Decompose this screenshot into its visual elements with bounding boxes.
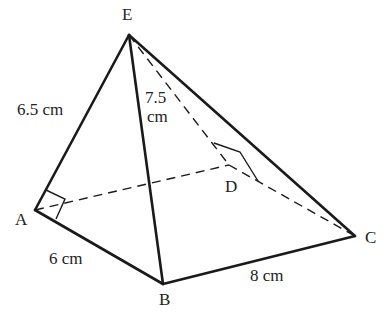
edge-ab-length: 6 cm [49,250,83,267]
edge-ad [35,165,229,210]
vertex-label-a: A [15,211,27,228]
edge-eb-length-line1: 7.5 [145,89,166,106]
edge-ab [35,210,163,284]
edge-ec [129,35,355,236]
edge-bc-length: 8 cm [250,267,284,284]
edge-ea [35,35,129,210]
edge-dc [229,165,355,236]
vertex-label-e: E [122,6,132,23]
pyramid-diagram: E A B C D 6.5 cm 7.5 cm 6 cm 8 cm [0,0,386,316]
right-angle-marker-a [46,190,65,219]
right-angle-marker-d [214,143,258,181]
vertex-label-d: D [225,178,237,195]
vertex-label-c: C [365,229,376,246]
pyramid-figure [0,0,386,316]
edge-ea-length: 6.5 cm [17,101,63,118]
vertex-label-b: B [159,291,170,308]
edge-eb-length-line2: cm [147,108,168,125]
